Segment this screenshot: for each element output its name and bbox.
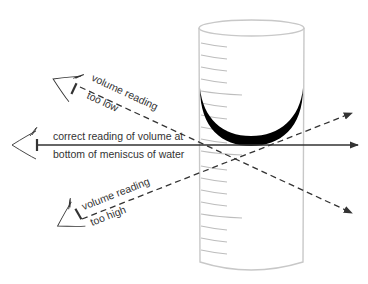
meniscus-reading-diagram: volume reading too low correct reading o… [0, 0, 368, 284]
correct-label-line2: bottom of meniscus of water [53, 148, 185, 160]
eye-correct-icon [12, 127, 37, 159]
cylinder-body [199, 28, 304, 270]
cylinder-rim [199, 20, 304, 36]
correct-label-line1: correct reading of volume at [53, 130, 183, 142]
eye-too-low-icon [47, 64, 84, 103]
